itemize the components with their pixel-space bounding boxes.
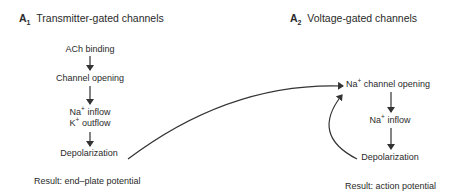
feedback-arrow-icon	[329, 95, 357, 159]
flow-arrows	[0, 0, 456, 195]
curved-arrow-icon	[128, 86, 343, 159]
